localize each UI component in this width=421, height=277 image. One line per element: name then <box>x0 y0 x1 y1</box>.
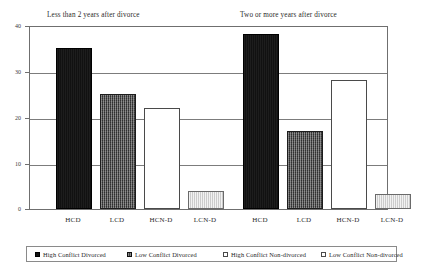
legend-item-hcn-d[interactable]: High Conflict Non-divorced <box>223 251 306 258</box>
x-axis-label-lcd-panel2: LCD <box>297 216 312 224</box>
x-axis-label-lcd-panel1: LCD <box>110 216 125 224</box>
panel-title-left: Less than 2 years after divorce <box>47 11 140 19</box>
legend-label: High Conflict Divorced <box>43 251 106 258</box>
y-axis-tick: 30 <box>25 72 29 73</box>
legend-label: Low Conflict Non-divorced <box>329 251 403 258</box>
y-axis-tick: 0 <box>25 209 29 210</box>
bar-hcd-panel1 <box>56 48 92 209</box>
x-axis-label-hcn-d-panel1: HCN-D <box>149 216 172 224</box>
x-axis-label-lcn-d-panel1: LCN-D <box>194 216 216 224</box>
x-axis-label-lcn-d-panel2: LCN-D <box>381 216 403 224</box>
legend-item-lcd[interactable]: Low Conflict Divorced <box>127 251 197 258</box>
legend-swatch-icon <box>35 252 40 257</box>
legend-item-lcn-d[interactable]: Low Conflict Non-divorced <box>321 251 403 258</box>
y-axis-tick-label: 10 <box>15 161 21 167</box>
plot-area <box>29 26 388 210</box>
y-axis-tick-label: 40 <box>15 23 21 29</box>
y-axis-tick: 20 <box>25 118 29 119</box>
bar-hcn-d-panel1 <box>144 108 180 209</box>
x-axis-label-hcd-panel2: HCD <box>252 216 267 224</box>
bar-lcd-panel2 <box>287 131 323 209</box>
bar-chart-figure: Less than 2 years after divorce Two or m… <box>0 0 421 277</box>
chart-legend: High Conflict DivorcedLow Conflict Divor… <box>26 246 397 262</box>
legend-swatch-icon <box>127 252 132 257</box>
x-axis-label-hcd-panel1: HCD <box>65 216 80 224</box>
legend-swatch-icon <box>321 252 326 257</box>
y-axis-tick-label: 20 <box>15 115 21 121</box>
panel-title-right: Two or more years after divorce <box>240 11 337 19</box>
bar-hcn-d-panel2 <box>331 80 367 209</box>
legend-item-hcd[interactable]: High Conflict Divorced <box>35 251 106 258</box>
y-axis-tick-label: 0 <box>18 206 21 212</box>
y-axis-tick: 40 <box>25 26 29 27</box>
bar-lcn-d-panel2 <box>375 194 411 209</box>
y-axis-tick: 10 <box>25 164 29 165</box>
legend-label: High Conflict Non-divorced <box>231 251 306 258</box>
bar-lcn-d-panel1 <box>188 191 224 209</box>
bar-lcd-panel1 <box>100 94 136 209</box>
legend-label: Low Conflict Divorced <box>135 251 197 258</box>
y-axis-tick-label: 30 <box>15 69 21 75</box>
y-axis: 010203040 <box>29 26 30 210</box>
x-axis-label-hcn-d-panel2: HCN-D <box>336 216 359 224</box>
legend-swatch-icon <box>223 252 228 257</box>
bar-hcd-panel2 <box>243 34 279 209</box>
